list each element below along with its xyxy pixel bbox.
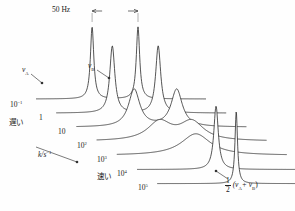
rate-tick-1: 1 [39,114,43,122]
coalesced-close-paren: ) [255,180,258,189]
peak-b-subscript: B [91,67,94,72]
peak-b-label: νB [88,62,94,70]
rate-tick-0: 10−1 [10,101,22,109]
rate-tick-0-exponent: −1 [18,100,23,105]
peak-a-label: νA [22,66,29,74]
fraction-denominator: 2 [225,186,231,194]
rate-axis-label: k/s−1 [38,151,51,159]
rate-tick-4-mantissa: 10 [97,155,105,164]
nmr-exchange-waterfall-figure: 50 Hz νA νB 10−1 1 10 102 103 104 105 遅い… [0,0,295,211]
rate-tick-3: 102 [77,142,87,150]
rate-tick-2-mantissa: 10 [58,127,66,136]
rate-tick-6: 105 [138,184,148,192]
rate-tick-0-mantissa: 10 [10,100,18,109]
rate-tick-4-exponent: 3 [105,155,107,160]
rate-axis-exponent: −1 [46,150,51,155]
slow-label: 遅い [9,119,23,127]
fast-label: 速い [97,173,111,181]
one-half-fraction: 1 2 [225,177,231,194]
coalesced-frequency-label: 1 2 (νA+ νB) [225,177,258,194]
rate-tick-3-mantissa: 10 [77,141,85,150]
rate-tick-2: 10 [58,128,66,136]
peak-a-subscript: A [25,71,28,76]
coalesced-plus: + ν [242,180,252,189]
rate-tick-3-exponent: 2 [85,141,87,146]
scale-bar-label: 50 Hz [52,6,70,14]
rate-tick-5: 104 [117,170,127,178]
rate-tick-6-mantissa: 10 [138,183,146,192]
rate-tick-5-mantissa: 10 [117,169,125,178]
rate-tick-5-exponent: 4 [125,169,127,174]
rate-tick-4: 103 [97,156,107,164]
rate-tick-6-exponent: 5 [146,183,148,188]
rate-tick-1-mantissa: 1 [39,113,43,122]
